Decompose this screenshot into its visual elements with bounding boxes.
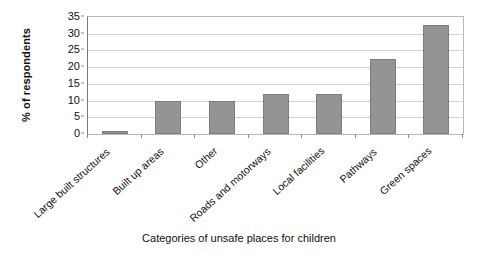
bar-slot xyxy=(88,17,142,134)
y-axis-tick-mark xyxy=(81,32,84,33)
bar xyxy=(423,25,449,134)
bar-slot xyxy=(249,17,303,134)
x-axis-category-label: Green spaces xyxy=(378,146,434,198)
bars-container xyxy=(88,17,463,134)
y-axis-tick-mark xyxy=(81,99,84,100)
plot-area xyxy=(87,16,464,135)
bar-chart-figure: % of respondents 05101520253035 Large bu… xyxy=(0,0,478,265)
bar-slot xyxy=(302,17,356,134)
x-axis-category-label: Built up areas xyxy=(110,146,165,197)
y-axis-tick-mark xyxy=(81,49,84,50)
x-axis-category-label: Pathways xyxy=(338,146,379,185)
x-axis-tick-mark xyxy=(462,134,463,138)
y-axis-tick-label: 30 xyxy=(68,27,80,38)
bar xyxy=(209,101,235,134)
bar xyxy=(263,94,289,134)
bar xyxy=(370,59,396,134)
bar-slot xyxy=(356,17,410,134)
x-axis-category-label: Large built structures xyxy=(32,146,112,220)
x-axis-tick-mark xyxy=(194,134,195,138)
y-axis-tick-labels: 05101520253035 xyxy=(58,10,84,137)
y-axis-tick-label: 25 xyxy=(68,44,80,55)
x-axis-tick-mark xyxy=(141,134,142,138)
y-axis-title-text: % of respondents xyxy=(20,28,32,122)
x-axis-category-label: Local facilities xyxy=(270,146,326,198)
y-axis-tick-label: 10 xyxy=(68,94,80,105)
y-axis-title: % of respondents xyxy=(14,18,38,132)
y-axis-tick-label: 15 xyxy=(68,77,80,88)
x-axis-category-label: Other xyxy=(192,146,219,172)
bar-slot xyxy=(409,17,463,134)
x-axis-tick-mark xyxy=(408,134,409,138)
x-axis-tick-mark xyxy=(301,134,302,138)
x-axis-tick-mark xyxy=(248,134,249,138)
bar-slot xyxy=(195,17,249,134)
y-axis-tick-label: 0 xyxy=(74,128,80,139)
x-axis-tick-mark xyxy=(355,134,356,138)
y-axis-tick-mark xyxy=(81,82,84,83)
y-axis-tick-mark xyxy=(81,66,84,67)
y-axis-tick-label: 5 xyxy=(74,111,80,122)
y-axis-tick-label: 35 xyxy=(68,11,80,22)
y-axis-tick-mark xyxy=(81,133,84,134)
x-axis-title: Categories of unsafe places for children xyxy=(0,232,478,244)
bar-slot xyxy=(142,17,196,134)
y-axis-tick-mark xyxy=(81,16,84,17)
bar xyxy=(316,94,342,134)
bar xyxy=(155,101,181,134)
y-axis-tick-label: 20 xyxy=(68,61,80,72)
x-axis-tick-mark xyxy=(87,134,88,138)
y-axis-tick-mark xyxy=(81,116,84,117)
x-axis-category-labels: Large built structuresBuilt up areasOthe… xyxy=(0,139,478,221)
